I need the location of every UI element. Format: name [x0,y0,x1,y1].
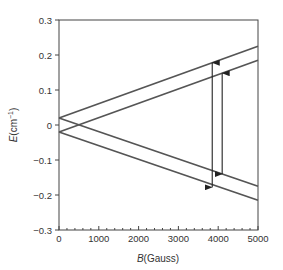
series-level-1 [59,46,258,118]
y-axis-label: E(cm−1) [7,108,19,143]
series-level-2 [59,60,258,132]
y-tick-label: 0.3 [39,15,52,26]
energy-levels [59,46,258,200]
x-tick-label: 0 [56,233,61,244]
y-tick-label: −0.2 [33,190,52,201]
x-tick-label: 5000 [247,233,268,244]
y-tick-label: 0.2 [39,50,52,61]
y-tick-label: 0.1 [39,85,52,96]
x-tick-label: 2000 [128,233,149,244]
x-axis-label: B(Gauss) [137,253,179,264]
x-axis: 010002000300040005000 [56,226,268,244]
transition-arrows [212,63,222,188]
x-tick-label: 1000 [88,233,109,244]
plot-frame [59,20,258,230]
series-level-4 [59,132,258,200]
y-tick-label: −0.3 [33,225,52,236]
y-tick-label: −0.1 [33,155,52,166]
axes-box [59,20,258,230]
chart: 0.30.20.10−0.1−0.2−0.3 01000200030004000… [0,0,283,270]
x-tick-label: 4000 [208,233,229,244]
series-level-3 [59,118,258,186]
y-axis: 0.30.20.10−0.1−0.2−0.3 [33,15,59,236]
y-tick-label: 0 [47,120,52,131]
x-tick-label: 3000 [168,233,189,244]
